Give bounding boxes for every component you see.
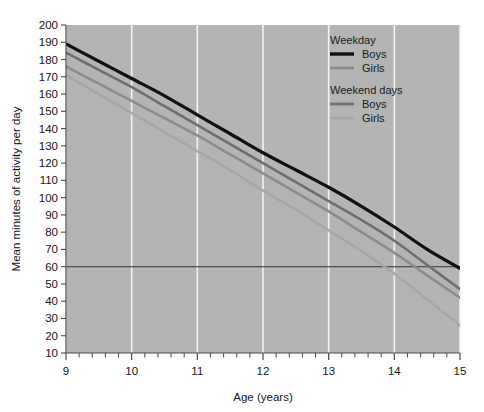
y-tick-label: 80 — [45, 226, 58, 238]
y-tick-label: 130 — [39, 140, 58, 152]
y-tick-label: 120 — [39, 157, 58, 169]
y-tick-label: 30 — [45, 312, 58, 324]
y-tick-label: 150 — [39, 105, 58, 117]
y-tick-label: 200 — [39, 19, 58, 31]
y-tick-label: 40 — [45, 295, 58, 307]
y-axis-title: Mean minutes of activity per day — [10, 106, 22, 271]
legend-entry-label: Boys — [362, 98, 387, 110]
y-tick-label: 100 — [39, 192, 58, 204]
y-tick-label: 50 — [45, 278, 58, 290]
x-tick-label: 14 — [388, 365, 401, 377]
y-tick-label: 160 — [39, 88, 58, 100]
x-tick-label: 11 — [191, 365, 203, 377]
legend-entry-label: Boys — [362, 48, 387, 60]
y-tick-label: 10 — [45, 347, 58, 359]
y-axis-title-text: Mean minutes of activity per day — [10, 106, 22, 271]
y-tick-label: 180 — [39, 54, 58, 66]
y-tick-label: 170 — [39, 71, 58, 83]
y-tick-label: 70 — [45, 243, 58, 255]
x-tick-label: 9 — [63, 365, 69, 377]
x-tick-label: 13 — [322, 365, 335, 377]
x-tick-label: 10 — [125, 365, 138, 377]
x-tick-label: 12 — [257, 365, 270, 377]
chart-figure: 1020304050607080901001101201301401501601… — [0, 0, 484, 412]
legend-entry-label: Girls — [362, 62, 385, 74]
y-tick-label: 190 — [39, 36, 58, 48]
y-tick-label: 20 — [45, 330, 58, 342]
y-tick-label: 110 — [40, 174, 58, 186]
y-tick-label: 140 — [39, 123, 58, 135]
y-tick-label: 60 — [45, 261, 58, 273]
y-tick-label: 90 — [45, 209, 58, 221]
x-axis-title-text: Age (years) — [233, 391, 293, 403]
x-tick-label: 15 — [454, 365, 467, 377]
legend-group-heading: Weekend days — [330, 84, 403, 96]
legend-group-heading: Weekday — [330, 34, 376, 46]
legend-entry-label: Girls — [362, 112, 385, 124]
x-axis-title: Age (years) — [233, 391, 293, 403]
activity-by-age-line-chart: 1020304050607080901001101201301401501601… — [0, 0, 484, 412]
